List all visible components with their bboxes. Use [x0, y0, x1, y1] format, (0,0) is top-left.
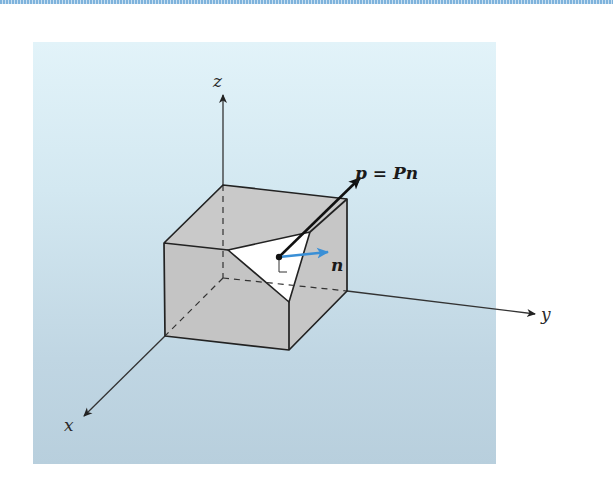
normal-vector-label: n: [331, 257, 343, 274]
y-axis: [347, 291, 535, 314]
cube-diagram: [0, 0, 613, 486]
cube: [164, 185, 347, 350]
point-p-dot: [276, 254, 282, 260]
y-axis-label: y: [541, 306, 551, 323]
traction-equation-label: p = Pn: [355, 165, 418, 182]
x-axis: [84, 336, 165, 416]
x-axis-label: x: [64, 417, 74, 434]
z-axis-label: z: [213, 73, 222, 90]
